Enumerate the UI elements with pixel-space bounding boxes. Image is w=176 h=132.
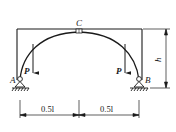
label-p-right: P bbox=[116, 66, 122, 76]
arch-diagram: C A B P P h bbox=[0, 0, 176, 132]
hinge-c bbox=[76, 29, 82, 33]
frame bbox=[17, 29, 142, 80]
label-c: C bbox=[76, 18, 83, 28]
label-left-span: 0.5l bbox=[41, 104, 55, 114]
label-a: A bbox=[9, 75, 16, 85]
label-h: h bbox=[153, 57, 163, 62]
span-dimension bbox=[20, 100, 139, 118]
label-b: B bbox=[145, 75, 151, 85]
label-p-left: P bbox=[24, 66, 30, 76]
label-right-span: 0.5l bbox=[100, 104, 114, 114]
